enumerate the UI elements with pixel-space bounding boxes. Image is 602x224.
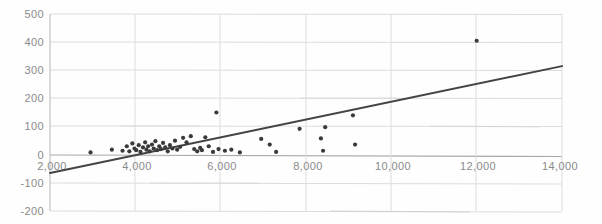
data-point: [153, 139, 157, 143]
data-point: [166, 149, 170, 153]
vertical-gridlines: [50, 14, 562, 211]
data-point: [173, 139, 177, 143]
chart-canvas: 500 400 300 200 100 0 -100 -200 2,000 4,…: [0, 0, 602, 224]
data-point: [274, 150, 278, 154]
data-point: [110, 148, 114, 152]
data-point: [148, 149, 152, 153]
y-tick-500: 500: [24, 8, 44, 20]
data-point: [195, 149, 199, 153]
data-point: [238, 150, 242, 154]
data-point: [203, 135, 207, 139]
x-tick-6000: 6,000: [207, 160, 237, 172]
data-point: [223, 149, 227, 153]
data-point: [88, 150, 92, 154]
scatter-chart: 500 400 300 200 100 0 -100 -200 2,000 4,…: [0, 0, 602, 224]
data-point: [321, 149, 325, 153]
data-point: [323, 125, 327, 129]
data-point: [259, 137, 263, 141]
x-tick-10000: 10,000: [375, 160, 411, 172]
data-point: [134, 148, 138, 152]
x-tick-4000: 4,000: [122, 160, 152, 172]
data-point: [229, 148, 233, 152]
y-tick-minus100: -100: [20, 177, 44, 189]
y-tick-100: 100: [24, 120, 44, 132]
data-point: [351, 113, 355, 117]
data-point: [125, 144, 129, 148]
data-point: [159, 147, 163, 151]
data-point: [137, 143, 141, 147]
gridline-y-minus200: [50, 211, 562, 212]
data-point: [141, 145, 145, 149]
x-tick-12000: 12,000: [460, 160, 496, 172]
data-point: [150, 142, 154, 146]
data-point: [168, 143, 172, 147]
data-point: [163, 145, 167, 149]
data-point: [181, 136, 185, 140]
data-point: [207, 144, 211, 148]
data-point: [130, 141, 134, 145]
y-axis-tick-labels: 500 400 300 200 100 0 -100 -200: [20, 8, 44, 217]
data-point: [170, 146, 174, 150]
data-point: [214, 110, 218, 114]
y-tick-300: 300: [24, 64, 44, 76]
data-point: [184, 140, 188, 144]
data-point: [120, 149, 124, 153]
data-point: [216, 147, 220, 151]
data-point: [353, 142, 357, 146]
data-point: [268, 142, 272, 146]
data-point: [146, 144, 150, 148]
data-point: [178, 145, 182, 149]
data-point: [211, 150, 215, 154]
y-tick-400: 400: [24, 36, 44, 48]
data-point: [155, 148, 159, 152]
data-point: [200, 148, 204, 152]
y-tick-minus200: -200: [20, 205, 44, 217]
data-point: [161, 141, 165, 145]
data-point: [298, 127, 302, 131]
y-tick-200: 200: [24, 92, 44, 104]
x-tick-8000: 8,000: [293, 160, 323, 172]
data-point: [127, 149, 131, 153]
data-point: [475, 39, 479, 43]
x-axis-tick-labels: 2,000 4,000 6,000 8,000 10,000 12,000 14…: [37, 160, 578, 172]
data-point: [319, 136, 323, 140]
data-point: [143, 140, 147, 144]
data-point: [138, 150, 142, 154]
x-tick-14000: 14,000: [542, 160, 578, 172]
data-point: [189, 134, 193, 138]
